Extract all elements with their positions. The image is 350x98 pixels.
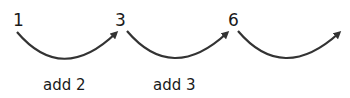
arc-step-3 <box>238 31 339 58</box>
step-label-add-3: add 3 <box>153 78 196 93</box>
step-label-add-2: add 2 <box>43 78 86 93</box>
arc-step-2 <box>127 31 227 58</box>
arc-step-1 <box>17 32 116 59</box>
